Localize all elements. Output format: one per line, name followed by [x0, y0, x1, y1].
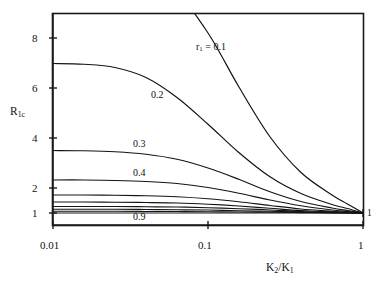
ytick-label-2: 2	[32, 183, 38, 194]
x-axis-title-slash: /K	[278, 261, 290, 273]
curve-label-0-2: 0.2	[151, 90, 164, 100]
xtick-label-1: 1	[358, 240, 364, 251]
tick-marks	[49, 38, 363, 229]
chart-figure: 8 6 4 2 1 R1c 0.01 0.1 1 K2/K1 r1 = 0.1 …	[0, 0, 385, 283]
ytick-label-4: 4	[32, 133, 38, 144]
ytick-label-1: 1	[32, 208, 38, 219]
curve-label-r1-0-1: r1 = 0.1	[196, 42, 226, 53]
curve-0-2	[53, 64, 363, 214]
curve-label-0-9: 0.9	[133, 212, 146, 222]
curve-label-0-3: 0.3	[133, 139, 146, 149]
ytick-label-8: 8	[32, 33, 38, 44]
xtick-label-0-1: 0.1	[198, 240, 212, 251]
y-axis-title-sub: 1c	[18, 110, 25, 119]
curve-label-0-4: 0.4	[133, 168, 146, 178]
x-axis-title: K2/K1	[266, 262, 294, 275]
right-edge-value-label: 1	[367, 209, 372, 219]
y-axis-title-main: R	[10, 105, 18, 117]
data-curves	[53, 0, 363, 213]
y-axis-title: R1c	[10, 105, 25, 119]
x-axis-title-k1-sub: 1	[290, 266, 294, 275]
xtick-label-0-01: 0.01	[40, 240, 59, 251]
curve-r1-0-1	[53, 0, 363, 213]
curve-0-3	[53, 151, 363, 214]
curve-label-r1-value: = 0.1	[203, 41, 226, 52]
ytick-label-6: 6	[32, 83, 38, 94]
